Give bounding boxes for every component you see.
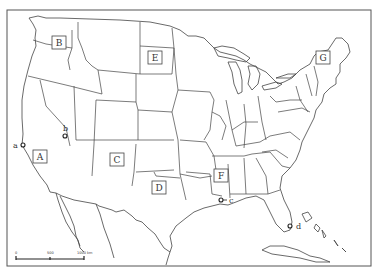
region-D: D bbox=[152, 181, 166, 194]
us-outline-map: A B C D E F G a b c d bbox=[0, 0, 377, 270]
state-borders bbox=[28, 22, 318, 200]
svg-text:c: c bbox=[229, 196, 234, 205]
svg-text:500: 500 bbox=[47, 251, 54, 255]
point-c: c bbox=[219, 196, 234, 205]
svg-text:0: 0 bbox=[15, 251, 17, 255]
region-B: B bbox=[52, 36, 66, 49]
svg-text:C: C bbox=[114, 155, 121, 165]
svg-text:F: F bbox=[218, 171, 224, 181]
scale-bar: 0 500 1000 km bbox=[15, 251, 93, 260]
svg-text:A: A bbox=[36, 152, 44, 162]
region-A: A bbox=[33, 150, 47, 163]
point-b: b bbox=[63, 124, 68, 138]
neighboring-coastlines bbox=[56, 193, 346, 265]
region-C: C bbox=[110, 153, 124, 166]
region-G: G bbox=[316, 51, 330, 64]
svg-text:E: E bbox=[152, 53, 159, 63]
region-E: E bbox=[148, 51, 162, 64]
svg-text:d: d bbox=[296, 222, 301, 231]
region-F: F bbox=[214, 169, 228, 182]
svg-text:a: a bbox=[13, 141, 18, 150]
svg-text:B: B bbox=[56, 38, 63, 48]
svg-text:b: b bbox=[63, 124, 68, 133]
svg-text:1000 km: 1000 km bbox=[77, 251, 93, 255]
svg-text:G: G bbox=[319, 53, 326, 63]
point-a: a bbox=[13, 141, 25, 150]
svg-text:D: D bbox=[155, 183, 162, 193]
